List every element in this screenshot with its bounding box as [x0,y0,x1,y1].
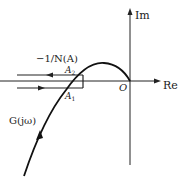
re-label: Re [163,79,178,92]
origin-label: O [119,82,127,93]
nyquist-label: G(jω) [9,115,36,126]
im-label: Im [135,9,150,22]
re-axis-arrow-icon [154,79,161,84]
im-axis-arrow-icon [128,8,133,15]
arrow-right-icon [38,86,45,91]
point-a1-label: A1 [64,91,75,102]
arrow-left-icon [46,73,53,78]
point-a2-label: A2 [64,65,76,76]
nyquist-curve [24,63,130,176]
describing-function-label: −1/N(A) [36,53,78,64]
nyquist-diagram: Im Re O −1/N(A) G(jω) A2 A1 [0,0,179,191]
